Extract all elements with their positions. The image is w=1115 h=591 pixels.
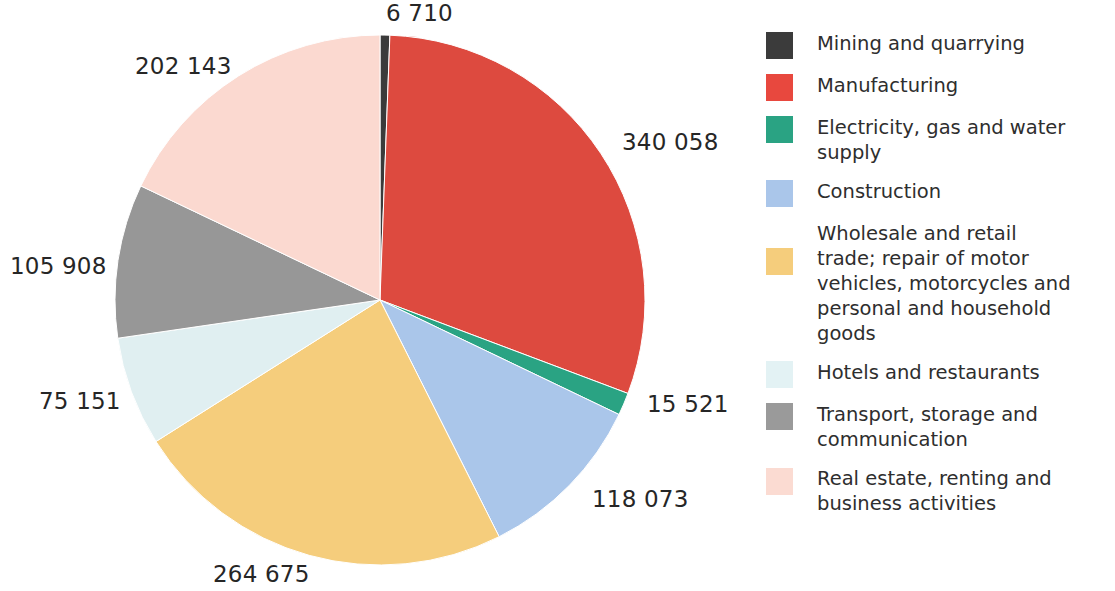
- value-label-hotels: 75 151: [39, 390, 121, 413]
- legend-label-wholesale: Wholesale and retail trade; repair of mo…: [817, 221, 1077, 346]
- legend-label-transport: Transport, storage and communication: [817, 402, 1077, 452]
- legend-item-manufacturing[interactable]: Manufacturing: [766, 73, 1106, 101]
- legend-swatch-hotels-icon: [766, 361, 793, 388]
- legend-swatch-electricity-icon: [766, 116, 793, 143]
- legend-item-hotels[interactable]: Hotels and restaurants: [766, 360, 1106, 388]
- legend-item-mining[interactable]: Mining and quarrying: [766, 31, 1106, 59]
- value-label-realestate: 202 143: [135, 55, 232, 78]
- legend-item-construction[interactable]: Construction: [766, 179, 1106, 207]
- legend-label-construction: Construction: [817, 179, 941, 204]
- value-label-electricity: 15 521: [647, 393, 729, 416]
- legend-swatch-construction-icon: [766, 180, 793, 207]
- legend-swatch-realestate-icon: [766, 468, 793, 495]
- legend-swatch-manufacturing-icon: [766, 74, 793, 101]
- legend-swatch-wholesale-icon: [766, 248, 793, 275]
- value-label-construction: 118 073: [592, 488, 689, 511]
- legend-swatch-mining-icon: [766, 32, 793, 59]
- value-label-mining: 6 710: [386, 2, 453, 25]
- value-label-transport: 105 908: [10, 255, 107, 278]
- pie-chart-area: 6 710 340 058 15 521 118 073 264 675 75 …: [0, 0, 760, 591]
- chart-legend: Mining and quarrying Manufacturing Elect…: [766, 31, 1106, 530]
- legend-label-manufacturing: Manufacturing: [817, 73, 958, 98]
- legend-item-realestate[interactable]: Real estate, renting and business activi…: [766, 466, 1106, 516]
- value-label-manufacturing: 340 058: [622, 131, 719, 154]
- legend-item-wholesale[interactable]: Wholesale and retail trade; repair of mo…: [766, 221, 1106, 346]
- pie-chart-page: 6 710 340 058 15 521 118 073 264 675 75 …: [0, 0, 1115, 591]
- legend-label-electricity: Electricity, gas and water supply: [817, 115, 1077, 165]
- legend-label-hotels: Hotels and restaurants: [817, 360, 1040, 385]
- legend-item-electricity[interactable]: Electricity, gas and water supply: [766, 115, 1106, 165]
- pie-slice-group: [115, 35, 645, 565]
- legend-label-realestate: Real estate, renting and business activi…: [817, 466, 1077, 516]
- value-label-wholesale: 264 675: [213, 563, 310, 586]
- legend-label-mining: Mining and quarrying: [817, 31, 1025, 56]
- legend-item-transport[interactable]: Transport, storage and communication: [766, 402, 1106, 452]
- legend-swatch-transport-icon: [766, 403, 793, 430]
